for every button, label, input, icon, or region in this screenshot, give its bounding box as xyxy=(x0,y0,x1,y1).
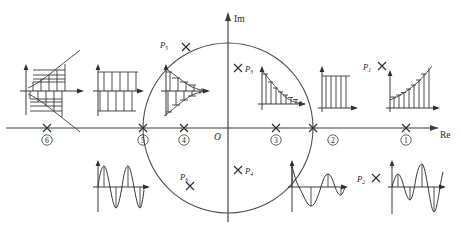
circled-label-1-text: 1 xyxy=(404,136,408,145)
imag-axis-label: Im xyxy=(234,14,245,24)
response-panel-3 xyxy=(258,66,306,110)
complex-pole-markers: P5 P3 P1 P6 P4 P2 xyxy=(159,40,386,190)
circled-label-2: 2 xyxy=(328,135,338,145)
origin-label: O xyxy=(214,132,221,142)
circled-label-6: 6 xyxy=(42,135,52,145)
pole-label-P6: P6 xyxy=(179,172,188,183)
z-plane-canvas: Im Re O 6 5 xyxy=(0,0,461,233)
circled-label-4-text: 4 xyxy=(182,136,186,145)
pole-label-P5: P5 xyxy=(159,40,168,51)
circled-index-labels: 6 5 4 3 2 1 xyxy=(42,135,411,145)
real-axis-arrow xyxy=(430,125,438,131)
circled-label-1: 1 xyxy=(401,135,411,145)
response-panel-P2 xyxy=(388,160,446,214)
response-panel-P6 xyxy=(93,160,150,212)
pole-marker-P3 xyxy=(234,64,242,72)
pole-marker-P2 xyxy=(372,174,380,182)
circled-label-3-text: 3 xyxy=(274,136,278,145)
pole-marker-P5 xyxy=(182,43,190,51)
pole-label-P3: P3 xyxy=(244,64,253,75)
real-axis-label: Re xyxy=(440,130,451,140)
response-panel-6 xyxy=(20,50,84,132)
response-panel-4 xyxy=(161,64,210,116)
pole-marker-P1 xyxy=(378,62,386,70)
response-panel-2 xyxy=(318,66,358,112)
pole-marker-P4 xyxy=(234,166,242,174)
circled-label-2-text: 2 xyxy=(331,136,335,145)
circled-label-4: 4 xyxy=(179,135,189,145)
pole-label-P1: P1 xyxy=(362,62,371,73)
pole-label-P4: P4 xyxy=(244,166,253,177)
circled-label-3: 3 xyxy=(271,135,281,145)
pole-label-P2: P2 xyxy=(356,174,365,185)
circled-label-6-text: 6 xyxy=(45,136,49,145)
response-panel-5 xyxy=(93,64,144,116)
response-panel-1 xyxy=(386,66,440,112)
response-panel-P4 xyxy=(288,160,348,212)
circled-label-5-text: 5 xyxy=(141,136,145,145)
z-plane-figure: Im Re O 6 5 xyxy=(0,0,461,233)
circled-label-5: 5 xyxy=(138,135,148,145)
imag-axis-arrow xyxy=(225,12,231,21)
